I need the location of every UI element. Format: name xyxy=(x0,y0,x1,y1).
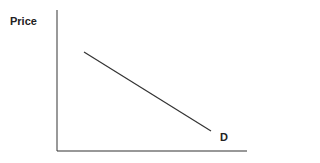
demand-curve xyxy=(84,52,211,131)
demand-curve-label: D xyxy=(220,131,228,143)
